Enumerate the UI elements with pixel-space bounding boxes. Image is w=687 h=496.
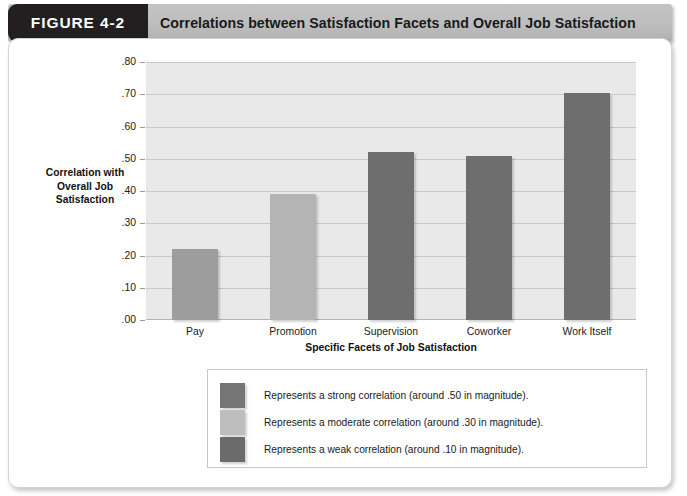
y-axis-tick-mark	[140, 288, 145, 289]
bar[interactable]	[270, 194, 316, 320]
y-axis-tick-mark	[140, 62, 145, 63]
y-axis-tick-mark	[140, 223, 145, 224]
legend-label: Represents a moderate correlation (aroun…	[264, 417, 543, 428]
legend-label: Represents a strong correlation (around …	[264, 390, 528, 401]
figure-header-bar: FIGURE 4-2 Correlations between Satisfac…	[8, 4, 672, 42]
y-axis-title-line-1: Correlation with	[35, 166, 135, 180]
y-axis-tick-label: .00	[102, 314, 136, 325]
bar[interactable]	[564, 93, 610, 320]
bar[interactable]	[368, 152, 414, 320]
y-axis-tick-mark	[140, 94, 145, 95]
chart-legend: Represents a strong correlation (around …	[207, 369, 647, 468]
y-axis-tick-mark	[140, 159, 145, 160]
y-axis-tick-label: .10	[102, 282, 136, 293]
bar-chart: Correlation with Overall Job Satisfactio…	[9, 39, 673, 489]
x-axis-tick-label: Supervision	[342, 326, 440, 337]
y-axis-tick-mark	[140, 256, 145, 257]
x-axis-title: Specific Facets of Job Satisfaction	[146, 342, 636, 353]
bar-slot	[440, 62, 538, 320]
legend-swatch	[220, 437, 245, 462]
y-axis-tick-label: .20	[102, 250, 136, 261]
legend-label: Represents a weak correlation (around .1…	[264, 444, 524, 455]
bars-layer	[146, 62, 636, 320]
legend-swatch	[220, 383, 245, 408]
y-axis-tick-mark	[140, 320, 145, 321]
figure-number-tab: FIGURE 4-2	[8, 4, 148, 42]
legend-item: Represents a moderate correlation (aroun…	[220, 409, 543, 435]
y-axis-tick-label: .70	[102, 88, 136, 99]
bar-slot	[244, 62, 342, 320]
legend-item: Represents a strong correlation (around …	[220, 382, 528, 408]
bar[interactable]	[466, 156, 512, 320]
figure-container: FIGURE 4-2 Correlations between Satisfac…	[0, 0, 687, 496]
y-axis-tick-label: .30	[102, 217, 136, 228]
figure-title: Correlations between Satisfaction Facets…	[160, 4, 636, 42]
legend-item: Represents a weak correlation (around .1…	[220, 436, 524, 462]
x-axis-tick-label: Work Itself	[538, 326, 636, 337]
x-axis-tick-label: Promotion	[244, 326, 342, 337]
bar-slot	[342, 62, 440, 320]
y-axis-tick-label: .50	[102, 153, 136, 164]
x-axis-tick-label: Coworker	[440, 326, 538, 337]
y-axis-tick-label: .60	[102, 121, 136, 132]
bar[interactable]	[172, 249, 218, 320]
y-axis-tick-label: .80	[102, 56, 136, 67]
x-axis-tick-label: Pay	[146, 326, 244, 337]
bar-slot	[146, 62, 244, 320]
figure-number-label: FIGURE 4-2	[31, 14, 125, 32]
legend-swatch	[220, 410, 245, 435]
figure-body-panel: Correlation with Overall Job Satisfactio…	[8, 38, 672, 488]
y-axis-tick-mark	[140, 127, 145, 128]
bar-slot	[538, 62, 636, 320]
y-axis-tick-mark	[140, 191, 145, 192]
y-axis-tick-label: .40	[102, 185, 136, 196]
